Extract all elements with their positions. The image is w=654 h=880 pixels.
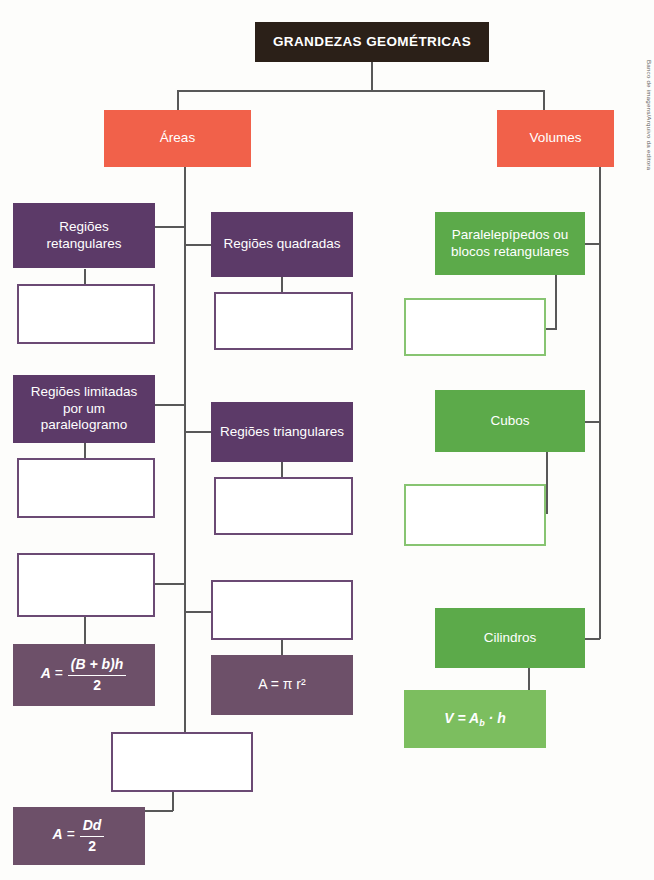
formula-rhombus-eq: = xyxy=(67,827,75,843)
formula-trapezoid-eq: = xyxy=(55,666,63,682)
node-regioes-retangulares[interactable]: Regiões retangulares xyxy=(13,203,155,268)
connector-areas-square xyxy=(184,244,212,246)
formula-cylinder-rest: · h xyxy=(489,710,506,726)
connector-triangle-to-slot xyxy=(281,462,283,477)
formula-rhombus-numerator: Dd xyxy=(80,817,105,836)
spine-volumes xyxy=(599,167,601,639)
formula-cylinder-text: V = Ab · h xyxy=(444,710,505,729)
connector-areas-parallelogram xyxy=(155,404,185,406)
connector-cubes-down xyxy=(546,452,548,514)
formula-trapezoid-numerator: (B + b)h xyxy=(68,656,127,675)
connector-slot-to-circle-formula xyxy=(281,640,283,655)
formula-cylinder-lhs: V = A xyxy=(444,710,479,726)
connector-bottom-slot-elbow xyxy=(145,810,173,812)
node-regioes-paralelogramo[interactable]: Regiões limitadas por um paralelogramo xyxy=(13,375,155,443)
node-cilindros[interactable]: Cilindros xyxy=(435,608,585,668)
connector-to-areas xyxy=(177,90,179,110)
connector-parallelepiped-down xyxy=(555,275,557,330)
connector-bottom-slot-down xyxy=(172,792,174,811)
connector-title-split xyxy=(177,90,544,92)
illustration-slot-cube[interactable] xyxy=(404,484,546,546)
connector-parallelogram-to-slot xyxy=(84,443,86,458)
formula-rhombus-denominator: 2 xyxy=(88,837,96,855)
image-credit: Banco de imagens/Arquivo da editora xyxy=(646,60,653,170)
connector-areas-rect xyxy=(155,226,185,228)
connector-title-down xyxy=(371,61,373,91)
illustration-slot-parallelogram[interactable] xyxy=(17,458,155,518)
formula-rhombus-fraction: Dd 2 xyxy=(80,817,105,854)
illustration-slot-square[interactable] xyxy=(214,292,353,350)
connector-areas-trapezoid-slot xyxy=(155,583,185,585)
illustration-slot-rhombus[interactable] xyxy=(111,732,253,792)
formula-trapezoid-area: A = (B + b)h 2 xyxy=(13,644,155,706)
connector-slot-to-trapezoid-formula xyxy=(84,617,86,644)
node-regioes-quadradas[interactable]: Regiões quadradas xyxy=(211,212,353,277)
formula-cylinder-sub: b xyxy=(479,718,485,728)
node-paralelepipedos[interactable]: Paralelepípedos ou blocos retangulares xyxy=(435,212,585,275)
connector-areas-triangle xyxy=(184,431,212,433)
connector-rect-to-slot xyxy=(84,269,86,284)
illustration-slot-parallelepiped[interactable] xyxy=(404,298,546,356)
illustration-slot-rectangle[interactable] xyxy=(17,284,155,344)
connector-areas-circle-slot xyxy=(184,611,212,613)
formula-trapezoid-fraction: (B + b)h 2 xyxy=(68,656,127,693)
formula-trapezoid-denominator: 2 xyxy=(93,676,101,694)
diagram-canvas: GRANDEZAS GEOMÉTRICAS Áreas Volumes Regi… xyxy=(0,0,654,880)
illustration-slot-circle[interactable] xyxy=(211,580,353,640)
illustration-slot-trapezoid[interactable] xyxy=(17,553,155,617)
connector-square-to-slot xyxy=(281,277,283,292)
connector-parallelepiped-elbow xyxy=(545,328,557,330)
formula-rhombus-lhs: A xyxy=(53,827,63,843)
node-cubos[interactable]: Cubos xyxy=(435,390,585,452)
branch-areas[interactable]: Áreas xyxy=(104,110,251,167)
illustration-slot-triangle[interactable] xyxy=(214,477,353,535)
formula-trapezoid-text: A = (B + b)h 2 xyxy=(41,656,128,693)
formula-rhombus-area: A = Dd 2 xyxy=(13,807,145,865)
connector-to-volumes xyxy=(543,90,545,110)
connector-volumes-cubes xyxy=(585,421,600,423)
connector-volumes-cylinders xyxy=(585,638,600,640)
connector-volumes-parallelepiped xyxy=(585,243,600,245)
formula-rhombus-text: A = Dd 2 xyxy=(53,817,106,854)
formula-circle-area: A = π r² xyxy=(211,655,353,715)
spine-areas xyxy=(184,167,186,767)
formula-cylinder-volume: V = Ab · h xyxy=(404,690,546,748)
diagram-title: GRANDEZAS GEOMÉTRICAS xyxy=(255,22,489,62)
branch-volumes[interactable]: Volumes xyxy=(497,110,614,167)
node-regioes-triangulares[interactable]: Regiões triangulares xyxy=(211,402,353,462)
formula-trapezoid-lhs: A xyxy=(41,666,51,682)
